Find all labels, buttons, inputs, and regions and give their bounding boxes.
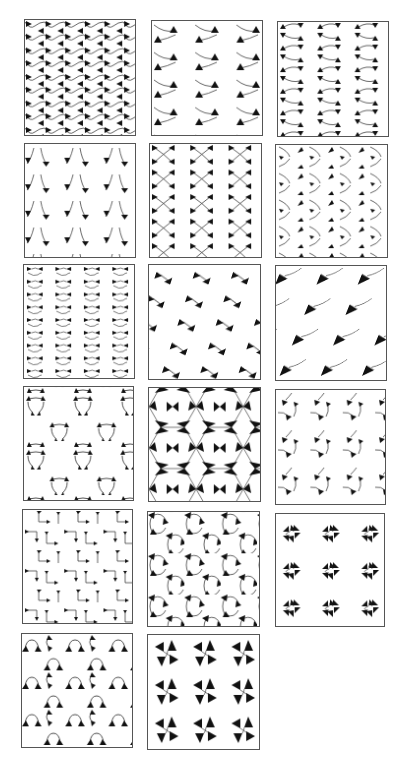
tiling-pattern-16: [22, 634, 132, 747]
panel-10: [23, 386, 134, 501]
panel-7: [23, 264, 135, 379]
tiling-pattern-15: [276, 514, 384, 626]
panel-4: [24, 143, 136, 258]
tiling-pattern-5: [150, 144, 261, 257]
tiling-pattern-14: [148, 512, 259, 626]
panel-6: [275, 144, 388, 258]
panel-14: [147, 511, 260, 627]
tiling-pattern-4: [25, 144, 135, 257]
tiling-pattern-6: [276, 145, 387, 257]
tiling-pattern-11: [149, 388, 260, 501]
tiling-pattern-2: [152, 21, 262, 135]
tiling-pattern-7: [24, 265, 134, 378]
panel-11: [148, 387, 261, 502]
tiling-pattern-1: [25, 20, 135, 135]
panel-9: [275, 265, 387, 381]
panel-2: [151, 20, 263, 136]
tiling-pattern-10: [24, 387, 133, 500]
panel-17: [147, 634, 260, 750]
tiling-pattern-9: [276, 266, 386, 380]
panel-1: [24, 19, 136, 136]
tiling-pattern-8: [149, 265, 260, 379]
tiling-pattern-13: [23, 510, 132, 623]
tiling-pattern-3: [278, 22, 388, 136]
panel-15: [275, 513, 385, 627]
side-mark: [3, 118, 6, 124]
panel-5: [149, 143, 262, 258]
tiling-pattern-12: [276, 390, 385, 504]
panel-12: [275, 389, 386, 505]
panel-13: [22, 509, 133, 624]
panel-16: [21, 633, 133, 748]
panel-8: [148, 264, 261, 380]
panel-3: [277, 21, 389, 137]
tiling-pattern-17: [148, 635, 259, 749]
